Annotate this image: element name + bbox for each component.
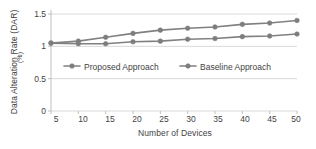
data-point [49,41,54,46]
data-point [131,40,136,45]
data-point [158,28,163,33]
data-point [185,37,190,42]
x-tick-label: 45 [261,114,283,124]
data-point [213,36,218,41]
data-point [267,34,272,39]
x-tick-label: 20 [126,114,148,124]
x-tick-label: 35 [207,114,229,124]
data-point [267,21,272,26]
series-markers [49,18,300,46]
y-axis-unit-label: (%) [16,43,23,73]
legend-item-proposed-approach[interactable]: Proposed Approach [84,62,159,72]
data-point [185,26,190,31]
y-tick-label: 0 [24,106,46,116]
y-tick-label: 0.5 [24,74,46,84]
data-point [213,25,218,30]
x-tick-label: 5 [45,114,67,124]
data-point [240,34,245,39]
chart-container: Data Alteration Rate (DAR) (%) Number of… [0,0,316,149]
data-point [131,31,136,36]
series-line-0 [51,34,297,44]
x-tick-label: 10 [72,114,94,124]
x-tick-label: 50 [285,114,307,124]
x-tick-label: 25 [153,114,175,124]
data-point [295,32,300,37]
legend-marker-1 [186,64,191,69]
series-lines [51,20,297,43]
x-tick-label: 15 [99,114,121,124]
chart-plot-area [0,0,316,149]
x-tick-label: 40 [234,114,256,124]
data-point [240,22,245,27]
legend-item-baseline-approach[interactable]: Baseline Approach [200,62,271,72]
legend-marker-0 [70,64,75,69]
data-point [103,41,108,46]
data-point [158,39,163,44]
data-point [76,39,81,44]
x-axis-title: Number of Devices [51,128,299,138]
y-tick-label: 1 [24,41,46,51]
data-point [103,35,108,40]
y-tick-label: 1.5 [24,9,46,19]
data-point [295,18,300,23]
x-tick-label: 30 [180,114,202,124]
